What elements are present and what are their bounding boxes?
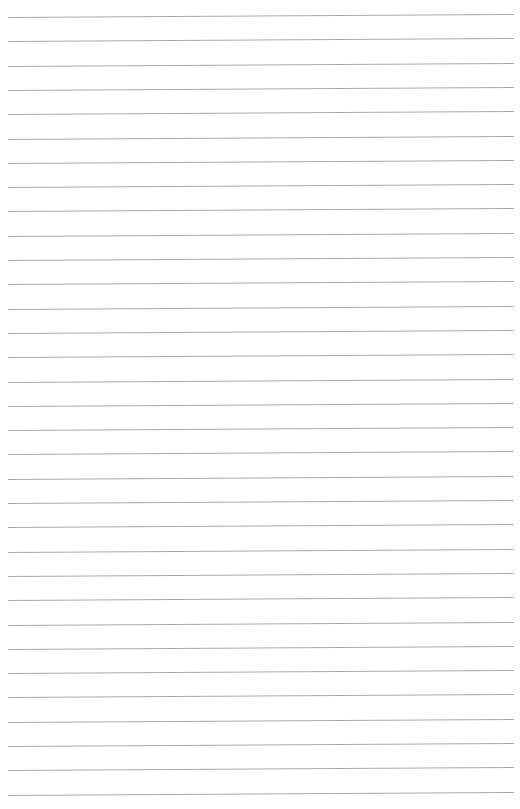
ruled-line <box>8 694 514 698</box>
ruled-line <box>8 621 514 625</box>
ruled-line <box>8 160 514 164</box>
ruled-line <box>8 451 514 455</box>
ruled-line <box>8 378 514 382</box>
ruled-line <box>8 719 514 723</box>
ruled-line <box>8 281 514 285</box>
ruled-line <box>8 670 514 674</box>
lined-paper-page <box>0 0 520 809</box>
ruled-line <box>8 184 514 188</box>
ruled-line <box>8 767 514 771</box>
ruled-line <box>8 403 514 407</box>
ruled-line <box>8 646 514 650</box>
ruled-line <box>8 257 514 261</box>
ruled-line <box>8 597 514 601</box>
ruled-line <box>8 87 514 91</box>
ruled-line <box>8 549 514 553</box>
ruled-line <box>8 38 514 42</box>
ruled-line <box>8 573 514 577</box>
ruled-line <box>8 743 514 747</box>
ruled-line <box>8 476 514 480</box>
ruled-line <box>8 524 514 528</box>
ruled-line <box>8 208 514 212</box>
ruled-line <box>8 330 514 334</box>
ruled-line <box>8 111 514 115</box>
ruled-line <box>8 135 514 139</box>
ruled-line <box>8 354 514 358</box>
ruled-line <box>8 306 514 310</box>
ruled-line <box>8 792 514 796</box>
ruled-line <box>8 500 514 504</box>
ruled-line <box>8 233 514 237</box>
ruled-line <box>8 63 514 67</box>
ruled-line <box>8 427 514 431</box>
ruled-line <box>8 14 514 18</box>
